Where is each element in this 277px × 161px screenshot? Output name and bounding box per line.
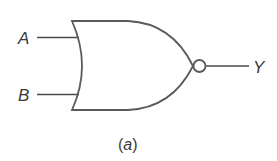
input-label-a: A (17, 29, 29, 48)
figure-caption: (a) (118, 136, 138, 153)
caption-letter: a (123, 136, 132, 153)
inversion-bubble (194, 60, 206, 72)
output-label-y: Y (253, 58, 266, 77)
nor-gate-body (72, 21, 193, 110)
input-label-b: B (18, 86, 29, 105)
caption-close-paren: ) (132, 136, 137, 153)
nor-gate-diagram: A B Y (a) (0, 0, 277, 161)
